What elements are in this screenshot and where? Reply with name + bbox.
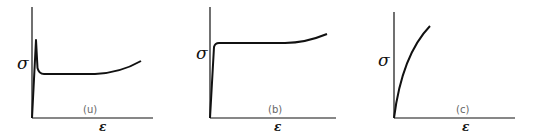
panel-c-caption: (c) xyxy=(456,104,469,115)
panel-b-caption: (b) xyxy=(268,104,282,115)
panel-c-epsilon-label: ε xyxy=(462,120,470,134)
panel-b-epsilon-label: ε xyxy=(274,120,282,134)
panel-a-sigma-label: σ xyxy=(17,53,29,73)
panel-a-caption: (u) xyxy=(83,104,97,115)
panel-b: σ ε (b) xyxy=(196,7,336,134)
panel-c: σ ε (c) xyxy=(378,12,515,134)
panel-c-sigma-label: σ xyxy=(378,50,390,70)
panel-a-epsilon-label: ε xyxy=(99,120,107,134)
panel-b-sigma-label: σ xyxy=(196,43,208,63)
panel-c-curve xyxy=(394,26,430,118)
stress-strain-figure: σ ε (u) σ ε (b) σ ε (c) xyxy=(0,0,533,134)
panel-a: σ ε (u) xyxy=(17,7,153,134)
